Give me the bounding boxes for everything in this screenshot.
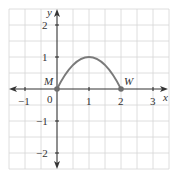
tick-label-y-neg2: −2 xyxy=(36,147,48,159)
tick-label-y-2: 2 xyxy=(42,19,48,31)
x-axis xyxy=(14,87,163,91)
tick-label-x-2: 2 xyxy=(118,95,124,107)
x-axis-label: x xyxy=(162,91,168,103)
point-w-label: W xyxy=(124,75,134,87)
tick-label-x-1: 1 xyxy=(86,95,92,107)
tick-label-y-neg1: −1 xyxy=(36,115,48,127)
tick-label-y-1: 1 xyxy=(42,51,48,63)
tick-label-x-3: 3 xyxy=(150,95,156,107)
point-w xyxy=(118,86,124,92)
point-m-label: M xyxy=(43,75,54,87)
y-axis-label: y xyxy=(46,6,52,18)
point-m xyxy=(54,86,60,92)
coordinate-plane: y x −1 1 2 3 0 2 1 −1 −2 M W xyxy=(0,0,173,183)
tick-label-x-neg1: −1 xyxy=(18,95,30,107)
origin-label: 0 xyxy=(47,93,53,105)
